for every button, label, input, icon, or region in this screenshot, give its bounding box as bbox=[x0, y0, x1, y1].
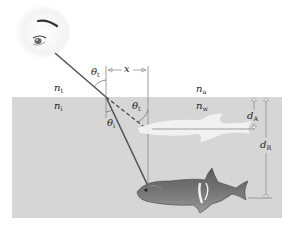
d-R-label: dR bbox=[260, 140, 271, 152]
x-label: x bbox=[124, 64, 130, 74]
theta-t-dashed-label: θt bbox=[132, 101, 141, 113]
n-i-label: ni bbox=[54, 101, 63, 113]
refraction-diagram: θt x nt ni θt θi na nw dA dR bbox=[0, 0, 298, 227]
n-t-label: nt bbox=[54, 83, 63, 95]
theta-i-label: θi bbox=[107, 118, 115, 130]
n-a-label: na bbox=[196, 84, 206, 96]
eye-icon bbox=[14, 6, 70, 58]
theta-t-top-label: θt bbox=[91, 67, 100, 79]
d-A-label: dA bbox=[247, 111, 258, 123]
n-w-label: nw bbox=[196, 101, 208, 113]
